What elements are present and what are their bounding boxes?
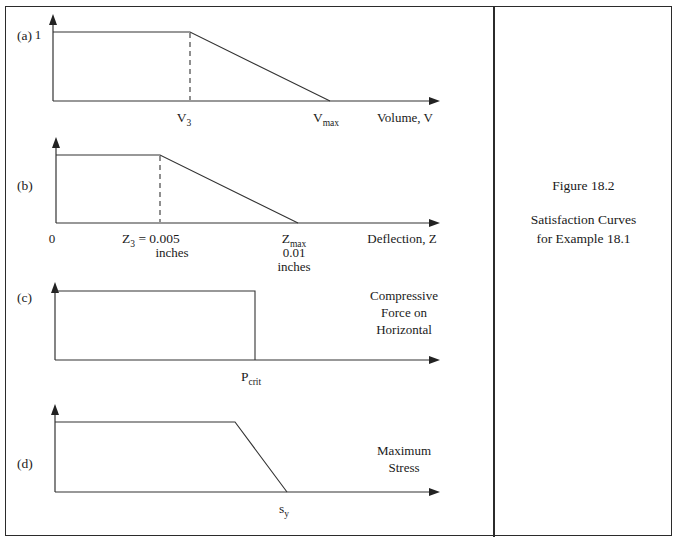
panel-a-curve (53, 32, 330, 101)
panel-a-y-axis-arrowhead (49, 14, 57, 25)
panel-a-end-label: Vmax (313, 110, 339, 128)
caption-column: Figure 18.2 Satisfaction Curves for Exam… (495, 6, 672, 536)
panel-b-x-axis-arrowhead (429, 219, 440, 227)
panel-d-breakpoint-label: sy (279, 501, 289, 519)
panel-c-side-note-line-2: Force on (381, 305, 427, 320)
panel-d-x-axis-arrowhead (429, 488, 440, 496)
panel-a-tag: (a) (17, 28, 32, 43)
panel-d-y-axis-arrowhead (51, 404, 59, 415)
panel-b-curve (56, 155, 298, 223)
plots-area: (a) 1 V3 Vmax Volume, V (b) 0 (0, 0, 493, 548)
figure-caption: Figure 18.2 Satisfaction Curves for Exam… (531, 176, 636, 249)
figure-caption-line-1: Satisfaction Curves (531, 210, 636, 230)
panel-a-breakpoint-label: V3 (177, 110, 192, 128)
panel-a-y-tick-label: 1 (35, 27, 42, 42)
panel-b-y-axis-arrowhead (52, 137, 60, 148)
panel-d: (d) sy Maximum Stress (17, 404, 440, 519)
panel-c-tag: (c) (17, 290, 32, 305)
panel-a: (a) 1 V3 Vmax Volume, V (17, 14, 440, 128)
figure-caption-line-2: for Example 18.1 (531, 229, 636, 249)
figure-page: (a) 1 V3 Vmax Volume, V (b) 0 (0, 0, 678, 548)
panel-b-breakpoint-units: inches (155, 245, 188, 260)
panel-b-origin-label: 0 (49, 231, 56, 246)
panel-c-curve (55, 291, 255, 360)
panel-b-x-axis-title: Deflection, Z (367, 231, 436, 246)
panel-c: (c) Pcrit Compressive Force on Horizonta… (17, 282, 440, 387)
panel-c-x-axis-arrowhead (429, 356, 440, 364)
panel-d-tag: (d) (17, 456, 33, 471)
panel-a-x-axis-title: Volume, V (377, 110, 433, 125)
panel-b-end-value: 0.01 (283, 245, 306, 260)
panel-c-side-note-line-1: Compressive (370, 288, 438, 303)
figure-caption-title: Figure 18.2 (531, 176, 636, 196)
panel-d-curve (55, 422, 287, 492)
panel-b: (b) 0 Z3 = 0.005 inches Zmax 0.01 inches… (17, 137, 440, 274)
panel-d-side-note-line-1: Maximum (377, 443, 431, 458)
panel-b-end-units: inches (277, 259, 310, 274)
satisfaction-curves-svg: (a) 1 V3 Vmax Volume, V (b) 0 (0, 0, 493, 548)
panel-c-side-note-line-3: Horizontal (376, 322, 432, 337)
panel-a-x-axis-arrowhead (429, 97, 440, 105)
panel-b-tag: (b) (17, 178, 33, 193)
panel-d-side-note-line-2: Stress (388, 460, 419, 475)
panel-c-breakpoint-label: Pcrit (241, 369, 262, 387)
